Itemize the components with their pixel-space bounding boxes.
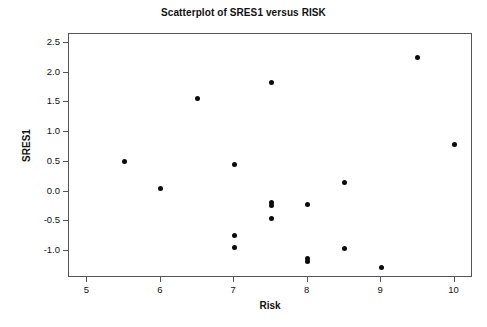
y-tick-label: 1.5 (20, 96, 60, 106)
y-tick-label: -0.5 (20, 215, 60, 225)
y-axis-label: SRES1 (21, 106, 32, 186)
x-tick-label: 9 (365, 285, 395, 295)
data-point (305, 259, 310, 264)
data-point (452, 142, 457, 147)
x-tick-label: 7 (218, 285, 248, 295)
x-tick-label: 5 (71, 285, 101, 295)
data-point (379, 265, 384, 270)
chart-title: Scatterplot of SRES1 versus RISK (0, 7, 487, 18)
data-point (232, 245, 237, 250)
data-point (269, 216, 274, 221)
data-point (305, 202, 310, 207)
y-tick-label: 2.0 (20, 67, 60, 77)
y-tick-label: 0.5 (20, 156, 60, 166)
x-tick-mark (233, 277, 234, 282)
x-tick-mark (454, 277, 455, 282)
y-tick-label: -1.0 (20, 245, 60, 255)
data-point (122, 159, 127, 164)
plot-area (68, 33, 472, 277)
data-point (342, 180, 347, 185)
x-tick-mark (160, 277, 161, 282)
scatterplot-figure: Scatterplot of SRES1 versus RISK SRES1 R… (0, 0, 487, 327)
data-point (232, 162, 237, 167)
x-tick-label: 8 (292, 285, 322, 295)
x-tick-mark (380, 277, 381, 282)
data-point (342, 246, 347, 251)
x-axis-label: Risk (68, 300, 472, 311)
y-tick-label: 1.0 (20, 126, 60, 136)
x-tick-label: 10 (439, 285, 469, 295)
data-point (158, 186, 163, 191)
data-point (415, 55, 420, 60)
data-point (195, 96, 200, 101)
x-tick-mark (86, 277, 87, 282)
data-point (269, 203, 274, 208)
y-tick-label: 0.0 (20, 186, 60, 196)
x-tick-mark (307, 277, 308, 282)
data-point (269, 80, 274, 85)
x-tick-label: 6 (145, 285, 175, 295)
data-point (232, 233, 237, 238)
y-tick-label: 2.5 (20, 37, 60, 47)
